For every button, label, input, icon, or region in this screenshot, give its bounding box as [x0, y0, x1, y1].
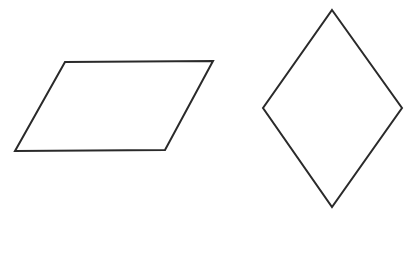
rhombus-shape — [263, 10, 402, 207]
geometry-diagram — [0, 0, 419, 269]
parallelogram-shape — [15, 61, 213, 151]
